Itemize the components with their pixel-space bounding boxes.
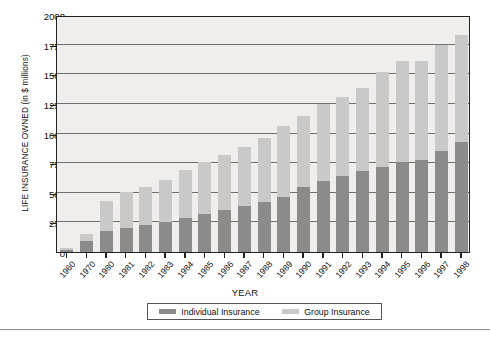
bar-segment [120,228,133,252]
x-axis-tick-label: 1994 [369,259,392,284]
bar-segment [356,88,369,171]
x-axis-tick-mark [401,253,402,258]
x-axis-tick-label: 1990 [290,259,313,284]
bar-column [238,15,251,252]
bar-segment [297,187,310,252]
bar-segment [435,45,448,152]
bar-column [317,15,330,252]
x-axis-tick-mark [263,253,264,258]
bar-segment [376,72,389,167]
bar-segment [60,250,73,252]
bar-segment [277,126,290,197]
bar-segment [455,35,468,142]
x-axis-tick-mark [224,253,225,258]
legend-label: Individual Insurance [181,307,259,317]
bar-series-group [57,17,469,252]
bar-segment [198,214,211,252]
legend-label: Group Insurance [304,307,370,317]
legend-entry: Individual Insurance [159,307,259,317]
chart-figure: LIFE INSURANCE OWNED (in $ millions) 025… [0,0,490,337]
bar-column [455,15,468,252]
bar-segment [60,248,73,250]
bar-segment [455,142,468,252]
bar-segment [179,170,192,217]
x-axis-tick-mark [86,253,87,258]
bar-column [297,15,310,252]
bar-segment [415,160,428,252]
x-axis-tick-mark [322,253,323,258]
x-axis-tick-mark [381,253,382,258]
x-axis-tick-label: 1987 [231,259,254,284]
bar-column [139,15,152,252]
chart-legend: Individual InsuranceGroup Insurance [147,303,382,320]
bar-column [198,15,211,252]
x-axis-tick-mark [440,253,441,258]
x-axis-tick-mark [184,253,185,258]
bar-segment [396,61,409,162]
bar-segment [80,234,93,241]
bar-column [179,15,192,252]
bar-segment [80,241,93,252]
bar-column [396,15,409,252]
x-axis-tick-mark [204,253,205,258]
bar-column [80,15,93,252]
bar-segment [336,97,349,175]
bar-column [120,15,133,252]
x-axis-tick-mark [145,253,146,258]
x-axis-tick-mark [342,253,343,258]
bar-segment [297,116,310,188]
bar-segment [139,187,152,225]
legend-entry: Group Insurance [282,307,370,317]
bar-segment [238,147,251,206]
bar-segment [159,180,172,221]
bar-segment [258,138,271,203]
bar-segment [218,155,231,210]
bar-column [435,15,448,252]
x-axis-tick-label: 1980 [93,259,116,284]
x-axis-tick-label: 1998 [448,259,471,284]
x-axis-tick-label: 1988 [251,259,274,284]
x-axis-tick-mark [283,253,284,258]
bar-segment [198,162,211,214]
bar-segment [120,192,133,228]
x-axis-tick-label: 1970 [74,259,97,284]
x-axis-tick-mark [164,253,165,258]
bar-segment [238,206,251,252]
x-axis-tick-mark [460,253,461,258]
x-axis-tick-label: 1997 [428,259,451,284]
bar-column [415,15,428,252]
x-axis-tick-label: 1989 [271,259,294,284]
x-axis-tick-label: 1991 [310,259,333,284]
x-axis-tick-label: 1996 [409,259,432,284]
bar-segment [376,167,389,252]
x-axis-tick-mark [421,253,422,258]
bar-segment [100,231,113,252]
bar-segment [336,176,349,252]
bar-segment [317,104,330,180]
x-axis-tick-label: 1986 [212,259,235,284]
x-axis-tick-mark [66,253,67,258]
x-axis-tick-label: 1993 [350,259,373,284]
bar-segment [435,151,448,252]
bar-column [356,15,369,252]
bar-column [60,15,73,252]
x-axis-tick-label: 1992 [330,259,353,284]
bar-column [277,15,290,252]
legend-color-swatch [282,309,299,314]
bar-column [100,15,113,252]
bar-column [218,15,231,252]
bar-segment [415,61,428,159]
x-axis-tick-label: 1981 [113,259,136,284]
bar-segment [317,181,330,252]
bar-segment [356,171,369,252]
x-axis-tick-label: 1985 [192,259,215,284]
x-axis-tick-mark [302,253,303,258]
bar-segment [159,222,172,252]
plot-area [56,16,470,253]
bar-segment [396,162,409,252]
x-axis-tick-mark [125,253,126,258]
bar-segment [179,218,192,252]
x-axis-tick-label: 1995 [389,259,412,284]
x-axis-title: YEAR [0,287,490,298]
x-axis-tick-label: 1984 [172,259,195,284]
